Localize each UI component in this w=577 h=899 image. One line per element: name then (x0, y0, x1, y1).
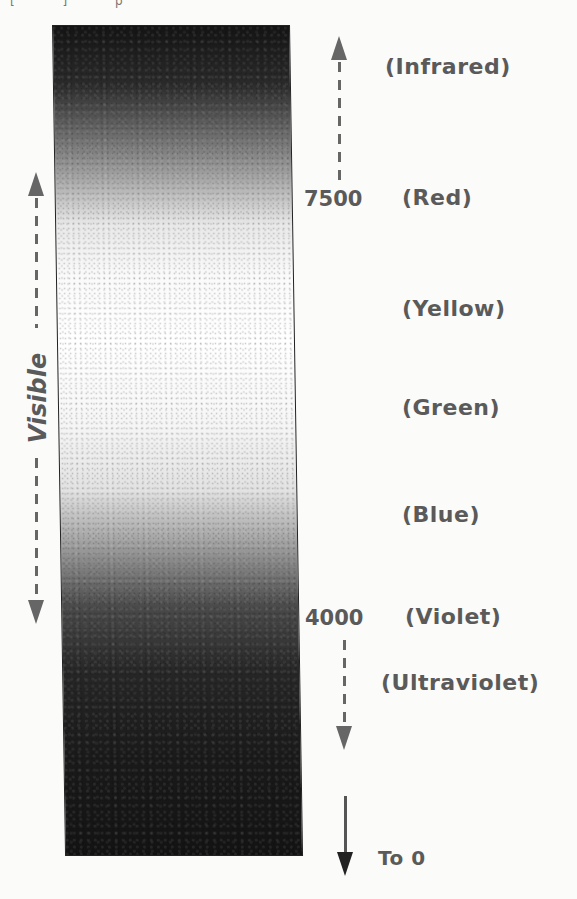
ultraviolet-down-arrow-icon (336, 726, 352, 750)
wavelength-7500: 7500 (304, 187, 362, 211)
band-label-violet: (Violet) (405, 604, 501, 629)
spectrum-intensity-bar (52, 25, 303, 856)
ultraviolet-dashed-line (343, 640, 346, 724)
band-label-yellow: (Yellow) (402, 296, 505, 321)
wavelength-4000: 4000 (305, 606, 363, 630)
band-label-infrared: (Infrared) (385, 54, 511, 79)
visible-range-up-arrow-icon (28, 172, 44, 196)
to-zero-down-arrow-icon (337, 852, 353, 876)
infrared-up-arrow-icon (331, 36, 347, 60)
visible-label: Visible (24, 338, 52, 458)
infrared-dashed-line (338, 62, 341, 184)
band-label-red: (Red) (402, 185, 472, 210)
visible-range-dashed-line-lower (35, 458, 38, 598)
to-zero-line (344, 796, 347, 856)
top-cropped-text: [ ] p (10, 0, 145, 8)
band-label-green: (Green) (402, 395, 500, 420)
to-zero-label: To 0 (378, 846, 426, 870)
visible-range-down-arrow-icon (28, 600, 44, 624)
visible-range-dashed-line-upper (35, 198, 38, 328)
band-label-ultraviolet: (Ultraviolet) (381, 670, 539, 695)
band-label-blue: (Blue) (402, 502, 480, 527)
